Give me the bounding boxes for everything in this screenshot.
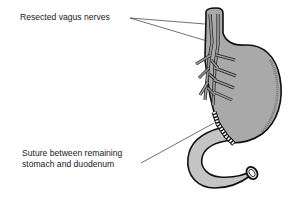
stomach-diagram bbox=[0, 0, 295, 202]
label-resected-vagus-nerves: Resected vagus nerves bbox=[20, 12, 110, 23]
label-suture-line-1: Suture between remaining bbox=[22, 148, 122, 159]
label-suture-line-2: stomach and duodenum bbox=[22, 159, 114, 170]
